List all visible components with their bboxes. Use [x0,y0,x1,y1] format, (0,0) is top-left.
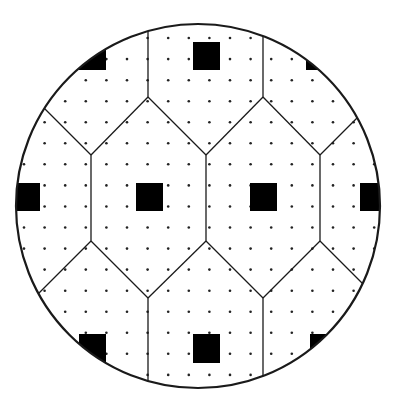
grid-dot [311,16,314,19]
grid-dot [105,332,108,335]
die-top [193,42,220,70]
die-center-right [250,183,277,211]
grid-dot [64,142,67,145]
grid-dot [332,58,335,61]
grid-dot [208,310,211,313]
grid-dot [85,79,88,82]
grid-dot [105,142,108,145]
grid-dot [85,142,88,145]
grid-dot [64,289,67,292]
grid-dot [311,374,314,377]
grid-dot [291,289,294,292]
grid-dot [167,268,170,271]
grid-dot [229,332,232,335]
grid-dot [43,226,46,229]
grid-dot [64,163,67,166]
grid-dot [85,100,88,103]
grid-dot [146,268,149,271]
grid-dot [43,79,46,82]
grid-dot [229,374,232,377]
grid-dot [311,226,314,229]
grid-dot [249,100,252,103]
grid-dot [270,100,273,103]
grid-dot [43,100,46,103]
grid-dot [64,247,67,250]
grid-dot [167,142,170,145]
grid-dot [146,247,149,250]
grid-dot [126,79,129,82]
grid-dot [167,374,170,377]
grid-dot [188,58,191,61]
grid-dot [188,226,191,229]
grid-dot [208,289,211,292]
grid-dot [23,226,26,229]
grid-dot [64,268,67,271]
grid-dot [43,58,46,61]
grid-dot [311,121,314,124]
die-bottom-center [193,334,220,363]
grid-dot [373,142,376,145]
grid-dot [332,79,335,82]
grid-dot [105,289,108,292]
grid-dot [373,268,376,271]
grid-dot [23,121,26,124]
grid-dot [270,310,273,313]
grid-dot [23,353,26,356]
grid-dot [126,268,129,271]
grid-dot [311,332,314,335]
grid-dot [126,142,129,145]
grid-dot [188,184,191,187]
grid-dot [64,374,67,377]
grid-dot [332,374,335,377]
grid-dot [249,374,252,377]
grid-dot [85,374,88,377]
grid-dot [146,226,149,229]
grid-dot [291,163,294,166]
grid-dot [352,226,355,229]
cell-edge [30,94,91,155]
grid-dot [291,184,294,187]
grid-dot [146,289,149,292]
grid-dot [188,289,191,292]
grid-dot [249,121,252,124]
wafer-contents [10,10,390,400]
grid-dot [43,142,46,145]
cell-edge [263,97,320,155]
grid-dot [43,184,46,187]
grid-dot [229,58,232,61]
grid-dot [352,163,355,166]
grid-dot [332,247,335,250]
grid-dot [208,247,211,250]
die-center-left [136,183,163,211]
grid-dot [291,142,294,145]
grid-dot [105,121,108,124]
grid-dot [146,163,149,166]
grid-dot [270,247,273,250]
grid-dot [270,142,273,145]
grid-dot [291,332,294,335]
grid-dot [23,163,26,166]
grid-dot [146,142,149,145]
grid-dot [126,58,129,61]
grid-dot [249,353,252,356]
grid-dot [249,142,252,145]
die-top-right [306,42,333,70]
grid-dot [208,142,211,145]
grid-dot [64,16,67,19]
grid-dot [126,289,129,292]
grid-dot [352,37,355,40]
grid-dot [188,247,191,250]
grid-dot [23,289,26,292]
grid-dot [229,121,232,124]
grid-dot [188,353,191,356]
grid-dot [249,16,252,19]
grid-dot [208,100,211,103]
grid-dot [167,289,170,292]
grid-dot [188,37,191,40]
grid-dot [126,332,129,335]
grid-dot [373,58,376,61]
grid-dot [167,100,170,103]
grid-dot [229,226,232,229]
grid-dot [311,268,314,271]
grid-dot [43,205,46,208]
